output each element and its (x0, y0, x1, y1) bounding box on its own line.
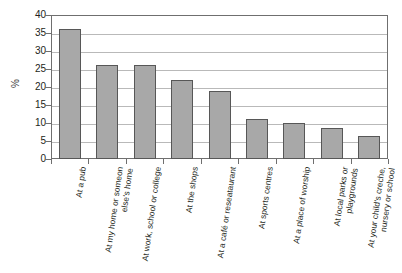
x-tick-mark (313, 159, 314, 164)
y-tick-label-10: 10 (24, 118, 46, 128)
y-tick-label-40: 40 (24, 10, 46, 20)
x-tick-label: At sports centres (250, 166, 274, 270)
bar[interactable] (96, 65, 118, 159)
bar-chart: % 4035302520151050 At a pubAt my home or… (0, 0, 402, 273)
x-tick-mark (238, 159, 239, 164)
bars-layer (51, 15, 388, 159)
x-tick-mark (201, 159, 202, 164)
x-tick-mark (126, 159, 127, 164)
x-tick-mark (276, 159, 277, 164)
y-tick-label-35: 35 (24, 28, 46, 38)
y-tick-label-20: 20 (24, 82, 46, 92)
bar[interactable] (209, 91, 231, 159)
bar[interactable] (59, 29, 81, 159)
x-tick-label: At a café or reseataurant (213, 166, 237, 270)
bar[interactable] (134, 65, 156, 159)
x-tick-label: At my home or someon else's home (101, 166, 135, 272)
bar[interactable] (246, 119, 268, 159)
y-tick-label-0: 0 (24, 154, 46, 164)
bar[interactable] (171, 80, 193, 159)
x-tick-mark (51, 159, 52, 164)
x-tick-label: At your child's creche, nursery or schoo… (363, 166, 397, 272)
bar[interactable] (358, 136, 380, 159)
x-tick-label: At work, school or college (138, 166, 162, 270)
y-tick-label-25: 25 (24, 64, 46, 74)
y-tick-label-15: 15 (24, 100, 46, 110)
x-tick-mark (88, 159, 89, 164)
x-tick-label: At the shops (176, 166, 200, 270)
x-tick-mark (388, 159, 389, 164)
x-tick-label: At a pub (63, 166, 87, 270)
x-tick-label: At a place of worship (288, 166, 312, 270)
y-axis-title: % (10, 71, 21, 97)
x-axis-labels: At a pubAt my home or someon else's home… (0, 166, 402, 273)
bar[interactable] (321, 128, 343, 159)
x-tick-mark (351, 159, 352, 164)
x-tick-label: At local parks or playgrounds (325, 166, 359, 272)
y-tick-label-5: 5 (24, 136, 46, 146)
bar[interactable] (283, 123, 305, 159)
y-tick-label-30: 30 (24, 46, 46, 56)
x-tick-mark (163, 159, 164, 164)
